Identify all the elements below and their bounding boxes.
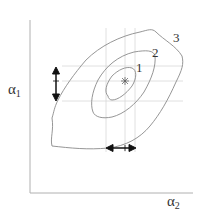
contour-label-1: 1 <box>136 60 143 75</box>
gridlines <box>62 28 183 152</box>
contour-1 <box>106 67 136 100</box>
contour-label-2: 2 <box>152 45 159 60</box>
contour-diagram: 1 2 3 α1 α2 <box>0 0 203 220</box>
contour-3 <box>51 30 182 149</box>
y-axis-label: α1 <box>8 81 21 99</box>
center-star-icon <box>121 77 129 85</box>
axes <box>30 20 193 193</box>
vertical-double-arrow-icon <box>53 67 60 101</box>
contour-2 <box>92 51 156 118</box>
contours <box>51 30 182 149</box>
x-axis-label: α2 <box>167 193 180 211</box>
contour-label-3: 3 <box>173 30 180 45</box>
